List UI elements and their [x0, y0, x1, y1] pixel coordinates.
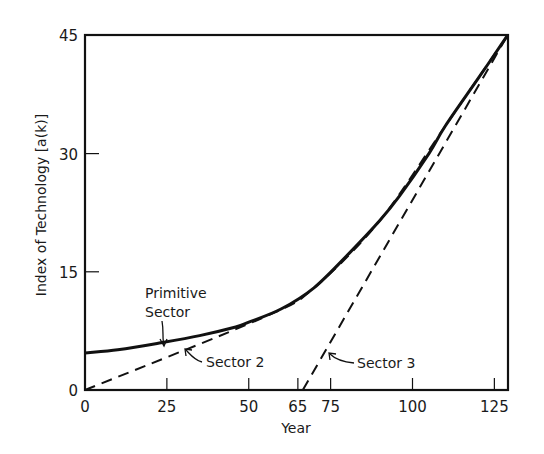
series-lines [85, 35, 508, 390]
y-tick-label: 15 [59, 264, 78, 282]
x-tick-label: 0 [80, 398, 90, 416]
y-axis-ticks: 0153045 [59, 27, 99, 400]
series-sector-3 [303, 35, 508, 390]
x-tick-label: 50 [239, 398, 258, 416]
y-tick-label: 0 [68, 382, 78, 400]
x-axis-ticks: 025506575100125 [80, 378, 508, 416]
x-tick-label: 65 [288, 398, 307, 416]
x-tick-label: 125 [480, 398, 509, 416]
annotation-primitive-line1: Primitive [145, 285, 207, 301]
annotation-sector3-arrow [330, 354, 354, 363]
annotations: Primitive Sector Sector 2 Sector 3 [145, 285, 415, 371]
y-tick-label: 45 [59, 27, 78, 45]
x-tick-label: 100 [398, 398, 427, 416]
y-tick-label: 30 [59, 146, 78, 164]
annotation-sector3: Sector 3 [357, 355, 415, 371]
x-axis-title: Year [280, 420, 311, 436]
series-sector-2 [85, 35, 508, 390]
plot-frame [85, 35, 508, 390]
y-axis-title: Index of Technology [a(k)] [33, 114, 49, 296]
annotation-primitive-line2: Sector [145, 304, 190, 320]
x-tick-label: 25 [157, 398, 176, 416]
annotation-sector2: Sector 2 [206, 354, 264, 370]
annotation-sector2-arrow [186, 350, 202, 362]
axes-box [85, 35, 508, 390]
chart: 025506575100125 0153045 Primitive Sector… [0, 0, 544, 454]
x-tick-label: 75 [321, 398, 340, 416]
